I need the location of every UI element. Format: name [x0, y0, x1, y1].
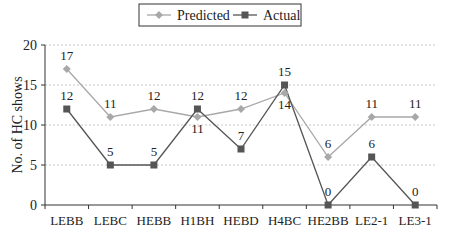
square-marker: [63, 106, 70, 113]
square-marker: [238, 146, 245, 153]
x-tick-label: HEBB: [137, 213, 172, 228]
data-label-actual: 5: [151, 144, 158, 159]
data-label-predicted: 12: [235, 88, 248, 103]
square-marker: [281, 82, 288, 89]
data-label-predicted: 11: [365, 96, 378, 111]
data-label-actual: 12: [191, 88, 204, 103]
x-tick-label: LEBB: [50, 213, 84, 228]
y-tick-label: 10: [23, 118, 37, 133]
line-chart: 05101520LEBBLEBCHEBBH1BHHEBDH4BCHE2BBLE2…: [0, 0, 449, 235]
data-label-predicted: 12: [147, 88, 160, 103]
x-tick-label: LEBC: [94, 213, 127, 228]
y-tick-label: 15: [23, 78, 37, 93]
data-label-actual: 15: [278, 64, 291, 79]
x-tick-label: HEBD: [223, 213, 258, 228]
y-tick-label: 5: [30, 158, 37, 173]
data-label-actual: 6: [368, 136, 375, 151]
x-tick-label: H4BC: [268, 213, 301, 228]
data-label-actual: 0: [325, 184, 332, 199]
diamond-marker: [193, 113, 201, 121]
square-marker: [325, 202, 332, 209]
diamond-marker: [411, 113, 419, 121]
y-tick-label: 0: [30, 198, 37, 213]
data-label-predicted: 11: [104, 96, 117, 111]
series-line-actual: [67, 85, 415, 205]
square-marker: [412, 202, 419, 209]
legend-label: Actual: [263, 8, 300, 23]
legend-square-icon: [242, 12, 249, 19]
diamond-marker: [150, 105, 158, 113]
x-tick-label: LE2-1: [355, 213, 388, 228]
data-label-actual: 12: [60, 88, 73, 103]
square-marker: [107, 162, 114, 169]
data-label-actual: 5: [107, 144, 114, 159]
square-marker: [194, 106, 201, 113]
x-tick-label: LE3-1: [399, 213, 432, 228]
diamond-marker: [237, 105, 245, 113]
data-label-predicted: 6: [325, 136, 332, 151]
x-tick-label: H1BH: [180, 213, 214, 228]
y-axis-label: No. of HC shows: [10, 76, 25, 173]
data-label-predicted: 14: [278, 97, 292, 112]
data-label-actual: 0: [412, 184, 419, 199]
data-label-predicted: 17: [60, 48, 74, 63]
square-marker: [368, 154, 375, 161]
square-marker: [150, 162, 157, 169]
data-label-predicted: 11: [409, 96, 422, 111]
y-tick-label: 20: [23, 38, 37, 53]
x-tick-label: HE2BB: [308, 213, 350, 228]
legend-label: Predicted: [177, 8, 230, 23]
data-label-actual: 7: [238, 128, 245, 143]
data-label-predicted: 11: [191, 121, 204, 136]
